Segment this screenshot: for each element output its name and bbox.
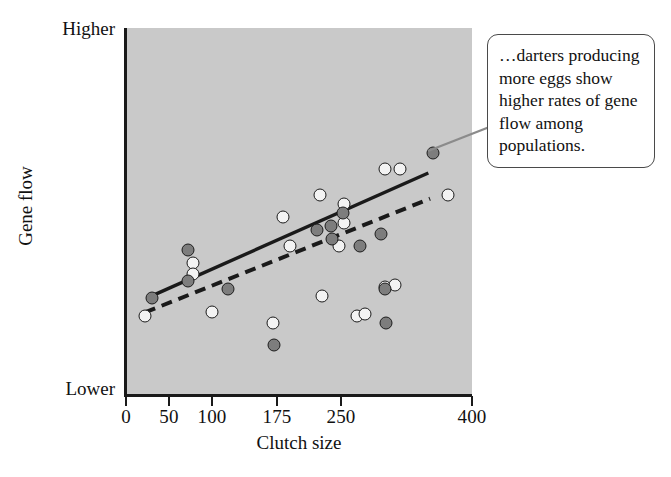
data-point-filled (181, 244, 194, 257)
data-point-open (394, 163, 407, 176)
y-axis-top-label: Higher (62, 18, 115, 40)
data-point-open (313, 188, 326, 201)
data-point-filled (324, 220, 337, 233)
y-axis-line (124, 28, 127, 397)
x-tick-50 (168, 396, 170, 406)
data-point-filled (326, 233, 339, 246)
data-point-open (283, 240, 296, 253)
x-axis-title: Clutch size (126, 432, 472, 454)
data-point-open (441, 188, 454, 201)
y-axis-bottom-label: Lower (65, 378, 115, 400)
x-tick-400 (471, 396, 473, 406)
scatter-plot-figure: 050100175250400 Higher Lower Gene flow C… (0, 0, 671, 477)
data-point-open (359, 308, 372, 321)
plot-area (126, 28, 472, 395)
data-point-filled (378, 282, 391, 295)
data-point-filled (354, 240, 367, 253)
x-tick-label-175: 175 (262, 406, 291, 428)
data-point-open (266, 317, 279, 330)
trend-lines-layer (126, 28, 472, 395)
data-point-filled (145, 291, 158, 304)
data-point-filled (311, 223, 324, 236)
x-axis-line (124, 394, 472, 397)
x-tick-label-50: 50 (159, 406, 178, 428)
x-tick-175 (276, 396, 278, 406)
x-tick-250 (340, 396, 342, 406)
data-point-filled (268, 339, 281, 352)
data-point-filled (336, 207, 349, 220)
callout-leader-line (424, 118, 494, 156)
x-tick-label-400: 400 (457, 406, 486, 428)
data-point-open (206, 306, 219, 319)
data-point-filled (380, 317, 393, 330)
x-tick-label-0: 0 (121, 406, 131, 428)
y-axis-title: Gene flow (15, 136, 37, 276)
data-point-open (378, 163, 391, 176)
x-tick-label-100: 100 (197, 406, 226, 428)
x-tick-100 (211, 396, 213, 406)
data-point-open (316, 289, 329, 302)
data-point-filled (375, 227, 388, 240)
x-tick-0 (125, 396, 127, 406)
data-point-open (276, 211, 289, 224)
annotation-text: …darters producing more eggs show higher… (499, 45, 639, 155)
annotation-callout: …darters producing more eggs show higher… (487, 34, 655, 168)
data-point-open (138, 310, 151, 323)
data-point-filled (181, 275, 194, 288)
data-point-filled (221, 282, 234, 295)
x-tick-label-250: 250 (326, 406, 355, 428)
